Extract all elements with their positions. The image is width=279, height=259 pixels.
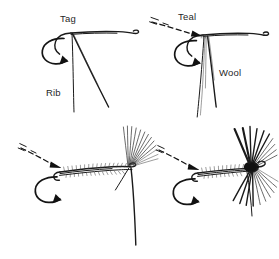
diagram-background [0,0,279,259]
label-tag: Tag [60,13,76,24]
fly-tying-diagram: Tag Rib [0,0,279,259]
label-rib: Rib [46,87,61,98]
label-wool: Wool [219,67,241,78]
diagram-canvas: Tag Rib [0,0,279,259]
label-teal: Teal [178,11,196,22]
